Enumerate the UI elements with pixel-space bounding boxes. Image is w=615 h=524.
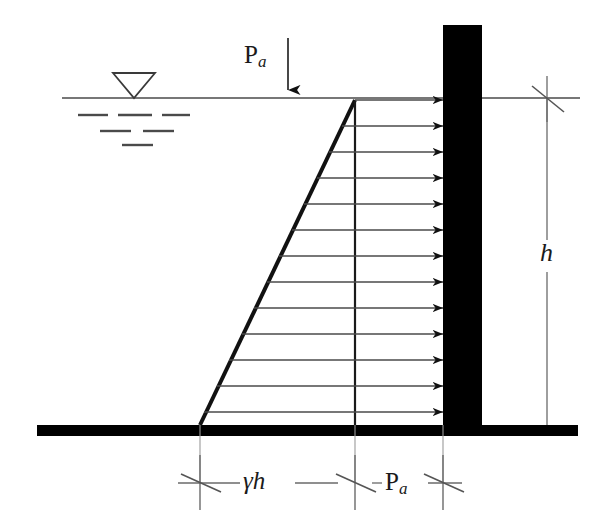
ground-slab	[37, 425, 578, 436]
bottom-dimension-line	[178, 425, 464, 510]
retaining-wall	[443, 25, 482, 426]
soil-pressure-wedge-outline	[200, 100, 355, 425]
surcharge-load-label-sub: a	[258, 52, 267, 71]
surcharge-pressure-label-sub: a	[399, 479, 408, 498]
water-table-dashes-icon	[78, 115, 190, 145]
surcharge-load-label-text: P	[244, 41, 258, 68]
soil-pressure-label: γh	[243, 468, 265, 493]
surcharge-pressure-label: Pa	[385, 469, 407, 497]
surcharge-load-label: Pa	[244, 42, 266, 70]
surcharge-pressure-label-text: P	[385, 468, 399, 495]
water-table-triangle-icon	[113, 73, 155, 98]
x-tick-icon-h-top	[532, 76, 564, 122]
wall-height-label: h	[540, 240, 553, 266]
x-tick-icon-dim-2	[336, 455, 376, 510]
retaining-wall-pressure-diagram: Pa h γh Pa	[0, 0, 615, 524]
lateral-pressure-arrows	[204, 100, 443, 412]
diagram-canvas	[0, 0, 615, 524]
